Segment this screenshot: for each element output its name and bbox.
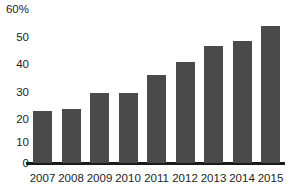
y-tick-label-40: 40 xyxy=(16,59,29,71)
bar-2015[interactable] xyxy=(261,26,280,163)
bar-2008[interactable] xyxy=(62,109,81,163)
bar-2012[interactable] xyxy=(176,62,195,163)
bar-2009[interactable] xyxy=(90,93,109,163)
x-tick-label-2009: 2009 xyxy=(84,173,116,185)
x-tick-label-2007: 2007 xyxy=(27,173,59,185)
x-tick-label-2012: 2012 xyxy=(169,173,201,185)
bar-chart: 60% 50 40 30 20 10 0 xyxy=(0,0,292,189)
bar-2013[interactable] xyxy=(204,46,223,163)
y-tick-label-20: 20 xyxy=(16,114,29,126)
bar-2011[interactable] xyxy=(147,75,166,163)
bar-2010[interactable] xyxy=(119,93,138,163)
y-axis: 60% 50 40 30 20 10 0 xyxy=(0,0,33,189)
x-tick-label-2010: 2010 xyxy=(112,173,144,185)
bar-2014[interactable] xyxy=(233,41,252,163)
y-tick-label-10: 10 xyxy=(16,137,29,149)
x-tick-label-2015: 2015 xyxy=(255,173,287,185)
y-tick-label-60: 60% xyxy=(6,4,29,16)
y-tick-label-50: 50 xyxy=(16,32,29,44)
bar-2007[interactable] xyxy=(33,111,52,163)
x-tick-label-2008: 2008 xyxy=(55,173,87,185)
x-tick-label-2011: 2011 xyxy=(141,173,173,185)
x-tick-label-2013: 2013 xyxy=(198,173,230,185)
y-tick-label-30: 30 xyxy=(16,87,29,99)
plot-area: 2007 2008 2009 2010 2011 2012 2013 2014 … xyxy=(33,0,292,189)
x-tick-label-2014: 2014 xyxy=(226,173,258,185)
